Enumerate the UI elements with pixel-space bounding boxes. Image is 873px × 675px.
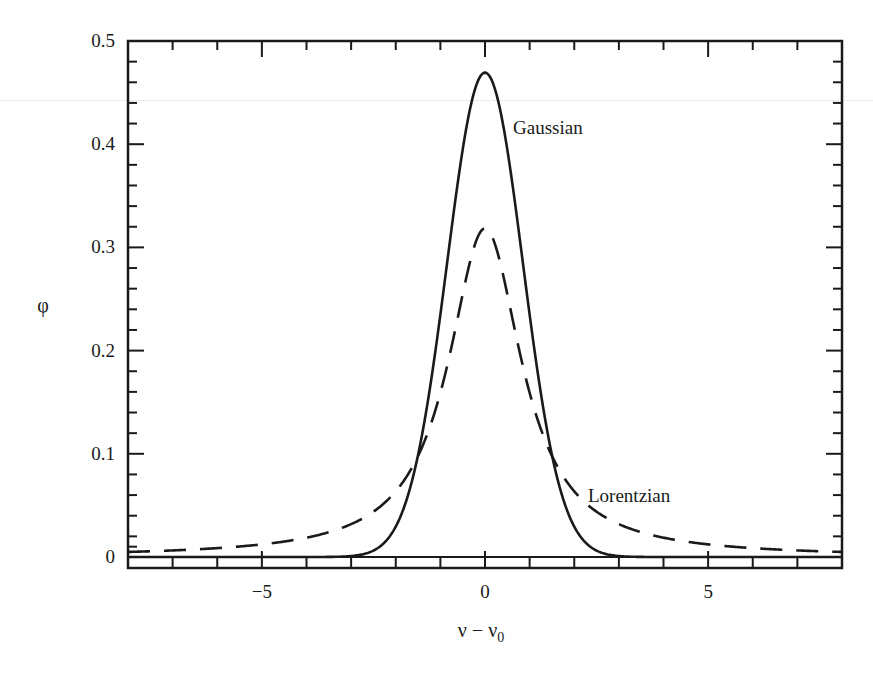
y-axis-title: φ [37,294,49,317]
y-tick-label: 0.1 [91,443,115,464]
lorentzian-label: Lorentzian [588,485,671,506]
y-tick-label: 0 [106,546,116,567]
x-axis-title-subscript: 0 [497,630,504,645]
x-tick-label: 5 [703,581,713,602]
y-tick-label: 0.2 [91,340,115,361]
lorentzian-curve [128,229,842,552]
y-tick-labels: 00.10.20.30.40.5 [91,30,115,567]
x-tick-label: 0 [480,581,490,602]
axis-ticks [128,41,842,568]
x-axis-title-main: ν − ν [458,619,497,641]
x-tick-label: −5 [252,581,272,602]
y-tick-label: 0.5 [91,30,115,51]
y-tick-label: 0.3 [91,236,115,257]
gaussian-label: Gaussian [513,117,583,138]
x-axis-title: ν − ν0 [458,619,504,645]
plot-frame [128,41,842,568]
line-chart: 00.10.20.30.40.5 −505 Gaussian Lorentzia… [0,0,873,675]
gaussian-curve [128,73,842,557]
x-tick-labels: −505 [252,581,713,602]
y-tick-label: 0.4 [91,133,115,154]
